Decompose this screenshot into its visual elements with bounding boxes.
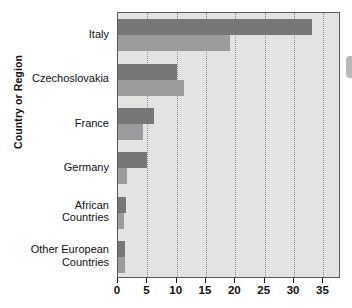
bar — [118, 108, 154, 124]
x-axis-tick-label: 35 — [316, 284, 329, 296]
category-label-line: Countries — [0, 211, 109, 224]
x-axis-tick-label: 10 — [169, 284, 182, 296]
x-axis-tick — [205, 278, 206, 283]
bar — [118, 80, 184, 96]
x-axis-tick-label: 0 — [114, 284, 120, 296]
category-label-line: Germany — [0, 161, 109, 174]
bar — [118, 257, 125, 273]
category-label: Czechoslovakia — [0, 72, 109, 85]
bar — [118, 64, 177, 80]
category-label: Germany — [0, 161, 109, 174]
gridline — [294, 13, 295, 277]
category-label-line: African — [0, 199, 109, 212]
x-axis-tick — [234, 278, 235, 283]
bar — [118, 152, 147, 168]
page-edge-artifact — [346, 56, 352, 78]
gridline — [323, 13, 324, 277]
plot-area — [117, 12, 340, 278]
category-label-line: Czechoslovakia — [0, 72, 109, 85]
gridline — [206, 13, 207, 277]
category-label-line: France — [0, 117, 109, 130]
category-label-line: Other European — [0, 243, 109, 256]
bar — [118, 19, 312, 35]
category-axis-labels: ItalyCzechoslovakiaFranceGermanyAfricanC… — [0, 12, 113, 278]
bar — [118, 35, 230, 51]
gridline — [235, 13, 236, 277]
category-label: Other EuropeanCountries — [0, 243, 109, 268]
bar — [118, 241, 125, 257]
bar — [118, 124, 143, 140]
x-axis-tick-label: 5 — [143, 284, 149, 296]
x-axis-tick-label: 25 — [257, 284, 270, 296]
x-axis-tick — [146, 278, 147, 283]
gridline — [265, 13, 266, 277]
category-label: Italy — [0, 28, 109, 41]
x-axis-tick — [176, 278, 177, 283]
x-axis-tick-label: 15 — [199, 284, 212, 296]
gridline — [147, 13, 148, 277]
x-axis-tick-label: 20 — [228, 284, 241, 296]
x-axis-tick-labels: 05101520253035 — [117, 284, 340, 304]
bar — [118, 213, 124, 229]
bar-chart: Country or Region ItalyCzechoslovakiaFra… — [0, 0, 352, 308]
x-axis-tick-label: 30 — [287, 284, 300, 296]
x-axis-tick — [264, 278, 265, 283]
gridline — [177, 13, 178, 277]
category-label-line: Italy — [0, 28, 109, 41]
category-label: France — [0, 117, 109, 130]
bar — [118, 197, 126, 213]
x-axis-tick — [322, 278, 323, 283]
bar — [118, 168, 127, 184]
x-axis-tick — [117, 278, 118, 283]
category-label-line: Countries — [0, 256, 109, 269]
x-axis-tick — [293, 278, 294, 283]
category-label: AfricanCountries — [0, 199, 109, 224]
